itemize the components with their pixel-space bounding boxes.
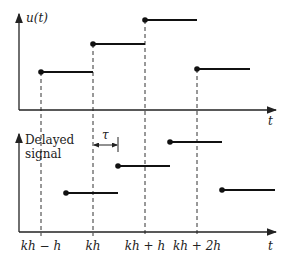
bottom-plot: Delayed signal t τ [19,128,276,253]
sample-dot [90,41,96,47]
tau-label: τ [102,128,109,142]
sample-dot [38,69,44,75]
sample-dot [142,17,148,23]
sample-time-guides [41,20,197,236]
top-x-label: t [268,114,273,128]
tick-label-kh: kh [86,239,101,253]
sampled-signal-diagram: u(t) t Delayed signal t τ [0,0,285,261]
bottom-x-label: t [268,239,273,253]
tick-label-kh-plus-h: kh + h [125,239,165,253]
delayed-signal-steps [63,139,275,196]
top-signal-steps [38,17,250,75]
sample-dot [219,187,225,193]
top-plot: u(t) t [19,11,276,128]
sample-dot [63,190,69,196]
sample-dot [194,66,200,72]
sample-dot [115,163,121,169]
delay-tau-indicator: τ [94,128,118,152]
top-y-label: u(t) [26,11,48,25]
bottom-y-label-line2: signal [25,147,62,161]
tick-label-kh-plus-2h: kh + 2h [173,239,221,253]
tick-label-kh-minus-h: kh − h [21,239,61,253]
sample-dot [167,139,173,145]
time-tick-labels: kh − h kh kh + h kh + 2h [21,239,221,253]
bottom-y-label-line1: Delayed [25,133,75,147]
